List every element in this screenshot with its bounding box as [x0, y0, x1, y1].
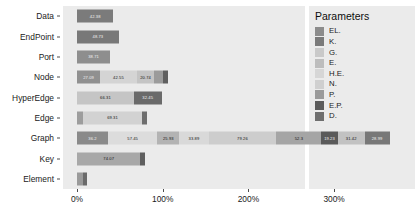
bar-segment-value: 57.45 — [127, 136, 138, 140]
legend-item[interactable]: N. — [315, 79, 413, 90]
legend-color-swatch — [315, 37, 324, 46]
bar-segment-value: 42.38 — [90, 14, 101, 18]
bar-segment[interactable]: 52.3 — [276, 132, 321, 145]
legend-color-swatch — [315, 80, 324, 89]
legend-color-swatch — [315, 90, 324, 99]
bar-row — [63, 172, 305, 185]
x-axis-tick — [77, 189, 78, 192]
bar-segment-value: 69.31 — [107, 116, 118, 120]
bar-segment[interactable]: 79.26 — [209, 132, 277, 145]
bar-segment[interactable]: 42.55 — [100, 71, 136, 84]
bar-segment[interactable]: 57.45 — [108, 132, 157, 145]
y-axis-label-key: Key — [40, 154, 54, 164]
x-axis-label-0pct: 0% — [71, 194, 83, 204]
bar-segment-value: 52.3 — [295, 136, 303, 140]
bar-segment[interactable]: 33.89 — [179, 132, 208, 145]
bar-row: 66.3132.45 — [63, 91, 305, 104]
bar-segment-value: 25.93 — [163, 136, 174, 140]
bar-row: 27.0942.5520.74 — [63, 71, 305, 84]
y-axis-label-endpoint: EndPoint — [20, 32, 54, 42]
y-axis-label-data: Data — [36, 11, 54, 21]
legend: Parameters EL.K.G.E.H.E.N.P.E.P.D. — [313, 10, 413, 121]
y-axis-tick — [57, 97, 60, 98]
bar-segment-value: 48.73 — [93, 34, 104, 38]
bar-segment[interactable] — [142, 111, 147, 124]
legend-item[interactable]: H.E. — [315, 68, 413, 79]
legend-item[interactable]: EL. — [315, 26, 413, 37]
bar-row: 48.73 — [63, 30, 305, 43]
bar-segment[interactable]: 38.71 — [77, 50, 110, 63]
bar-segment[interactable]: 36.2 — [77, 132, 108, 145]
legend-item-label: EL. — [329, 27, 341, 35]
bar-segment[interactable]: 28.99 — [365, 132, 390, 145]
stacked-bar-chart: DataEndPointPortNodeHyperEdgeEdgeGraphKe… — [0, 0, 415, 223]
x-axis-label-200pct: 200% — [238, 194, 259, 204]
x-axis-tick — [334, 189, 335, 192]
bar-segment-value: 32.45 — [142, 95, 153, 99]
legend-item-label: E. — [329, 59, 336, 67]
bar-segment[interactable]: 25.93 — [157, 132, 179, 145]
legend-item-label: N. — [329, 80, 337, 88]
y-axis-label-port: Port — [39, 52, 54, 62]
y-axis-tick — [57, 36, 60, 37]
legend-item[interactable]: E. — [315, 58, 413, 69]
x-axis-tick — [163, 189, 164, 192]
y-axis-tick — [57, 117, 60, 118]
bar-row: 42.38 — [63, 10, 305, 23]
y-axis-label-hyperedge: HyperEdge — [12, 93, 54, 103]
legend-item-label: K. — [329, 38, 336, 46]
bar-segment[interactable]: 48.73 — [77, 30, 119, 43]
bar-segment-value: 42.55 — [113, 75, 124, 79]
legend-item[interactable]: E.P. — [315, 100, 413, 111]
legend-item[interactable]: D. — [315, 111, 413, 122]
bar-segment[interactable]: 27.09 — [77, 71, 100, 84]
bar-segment[interactable] — [154, 71, 163, 84]
bar-row: 36.257.4525.9333.8979.2652.319.2331.4228… — [63, 132, 305, 145]
x-axis-label-100pct: 100% — [152, 194, 173, 204]
bar-segment-value: 36.2 — [88, 136, 96, 140]
legend-item[interactable]: P. — [315, 90, 413, 101]
x-axis: 0%100%200%300% — [63, 189, 305, 219]
bar-segment[interactable]: 66.31 — [77, 91, 134, 104]
bar-segment-value: 66.31 — [100, 95, 111, 99]
x-axis-tick — [248, 189, 249, 192]
bar-row: 74.07 — [63, 152, 305, 165]
bar-row: 69.31 — [63, 111, 305, 124]
legend-item-label: G. — [329, 49, 337, 57]
legend-color-swatch — [315, 112, 324, 121]
legend-color-swatch — [315, 59, 324, 68]
bar-segment-value: 19.23 — [324, 136, 335, 140]
bar-segment[interactable]: 74.07 — [77, 152, 140, 165]
bar-segment[interactable]: 19.23 — [321, 132, 337, 145]
legend-items: EL.K.G.E.H.E.N.P.E.P.D. — [313, 26, 413, 121]
legend-item-label: H.E. — [329, 70, 344, 78]
bar-segment[interactable]: 31.42 — [338, 132, 365, 145]
legend-color-swatch — [315, 48, 324, 57]
y-axis-tick — [57, 178, 60, 179]
y-axis-tick — [57, 77, 60, 78]
legend-color-swatch — [315, 101, 324, 110]
bar-segment[interactable] — [83, 172, 86, 185]
bar-segment-value: 74.07 — [103, 156, 114, 160]
legend-item-label: P. — [329, 91, 335, 99]
legend-item[interactable]: G. — [315, 47, 413, 58]
y-axis: DataEndPointPortNodeHyperEdgeEdgeGraphKe… — [0, 6, 62, 189]
bar-segment-value: 28.99 — [372, 136, 383, 140]
bar-segment[interactable]: 20.74 — [137, 71, 155, 84]
bar-segment[interactable]: 42.38 — [77, 10, 113, 23]
y-axis-label-element: Element — [23, 174, 54, 184]
bar-segment[interactable]: 32.45 — [134, 91, 162, 104]
bar-segment-value: 20.74 — [140, 75, 151, 79]
bar-segment[interactable] — [140, 152, 145, 165]
bar-segment-value: 79.26 — [237, 136, 248, 140]
y-axis-tick — [57, 56, 60, 57]
bar-segment-value: 31.42 — [346, 136, 357, 140]
bar-segment[interactable] — [163, 71, 168, 84]
y-axis-label-graph: Graph — [31, 133, 54, 143]
legend-title: Parameters — [315, 10, 413, 22]
bar-segment[interactable]: 69.31 — [83, 111, 142, 124]
legend-item-label: E.P. — [329, 102, 343, 110]
y-axis-tick — [57, 138, 60, 139]
bar-segment-value: 38.71 — [88, 55, 99, 59]
legend-item[interactable]: K. — [315, 37, 413, 48]
